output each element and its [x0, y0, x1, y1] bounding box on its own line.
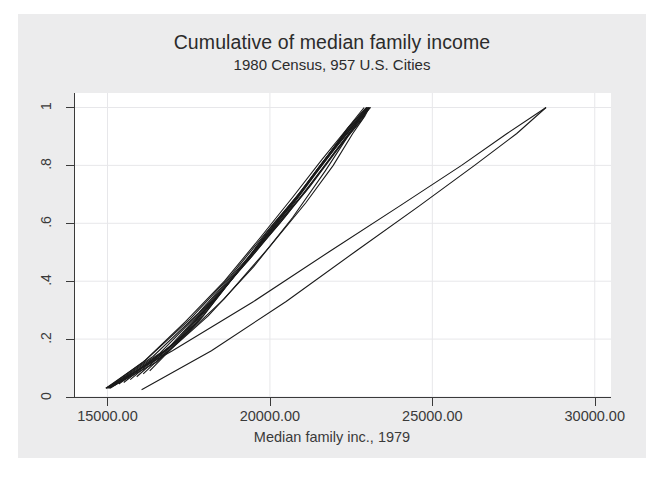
series-line: [142, 107, 546, 389]
plot-area: [75, 93, 611, 397]
title-block: Cumulative of median family income 1980 …: [18, 30, 646, 75]
y-tick-mark: [66, 281, 74, 282]
x-tick-mark: [432, 398, 433, 406]
y-tick-mark: [66, 165, 74, 166]
x-tick-label: 15000.00: [52, 408, 162, 424]
y-tick-label-wrap: 1: [26, 98, 66, 116]
chart-subtitle: 1980 Census, 957 U.S. Cities: [18, 55, 646, 75]
y-tick-labels: 0.2.4.6.81: [26, 93, 66, 398]
chart-figure: Cumulative of median family income 1980 …: [18, 14, 646, 458]
series-line: [150, 107, 367, 370]
series-line: [109, 107, 368, 388]
x-axis-line: [74, 397, 611, 398]
y-tick-label: .2: [38, 318, 54, 358]
y-tick-mark: [66, 107, 74, 108]
y-tick-label-wrap: .4: [26, 272, 66, 290]
y-tick-label: 1: [38, 86, 54, 126]
y-tick-label-wrap: 0: [26, 388, 66, 406]
y-tick-label: .8: [38, 144, 54, 184]
data-series-group: [106, 107, 546, 389]
chart-title: Cumulative of median family income: [18, 30, 646, 54]
x-tick-mark: [595, 398, 596, 406]
y-tick-mark: [66, 397, 74, 398]
y-tick-mark: [66, 339, 74, 340]
series-line: [108, 107, 370, 388]
y-tick-label-wrap: .8: [26, 156, 66, 174]
plot-canvas: [75, 93, 611, 397]
x-tick-label: 25000.00: [377, 408, 487, 424]
y-tick-label-wrap: .6: [26, 214, 66, 232]
series-line: [111, 107, 370, 386]
y-tick-mark: [66, 223, 74, 224]
x-tick-label: 30000.00: [540, 408, 650, 424]
x-tick-mark: [107, 398, 108, 406]
x-tick-mark: [270, 398, 271, 406]
y-axis-line: [74, 93, 75, 398]
y-tick-label: .6: [38, 202, 54, 242]
x-tick-label: 20000.00: [215, 408, 325, 424]
y-tick-label-wrap: .2: [26, 330, 66, 348]
y-tick-label: .4: [38, 260, 54, 300]
series-line: [106, 107, 364, 388]
x-axis-title: Median family inc., 1979: [18, 429, 646, 445]
